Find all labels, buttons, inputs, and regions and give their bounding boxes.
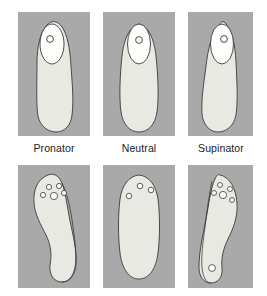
heel-region-supinator	[211, 24, 234, 64]
heel-region-pronator	[40, 24, 64, 64]
insole-hole	[126, 193, 132, 199]
insole-hole	[148, 187, 154, 193]
panel-rear-view-supinator	[188, 12, 253, 136]
panel-insole-neutral	[103, 165, 175, 288]
panel-insole-supinator	[188, 165, 253, 288]
insole-hole	[50, 192, 57, 199]
insole-hole	[230, 198, 235, 203]
panel-rear-view-pronator	[18, 12, 90, 136]
alignment-marker-icon	[221, 36, 228, 43]
alignment-marker-icon	[47, 36, 54, 43]
insole-hole	[137, 183, 143, 189]
caption-pronator: Pronator	[18, 142, 90, 154]
insole-hole	[46, 184, 51, 189]
heel-region-neutral	[128, 24, 151, 64]
insole-hole	[218, 183, 223, 188]
insole-hole	[219, 191, 226, 198]
insole-hole	[40, 192, 45, 197]
caption-supinator: Supinator	[186, 142, 256, 154]
insole-hole-heel	[209, 265, 216, 272]
insole-hole	[212, 191, 217, 196]
caption-neutral: Neutral	[103, 142, 175, 154]
insole-hole	[228, 187, 233, 192]
panel-rear-view-neutral	[103, 12, 175, 136]
insole-hole	[61, 190, 66, 195]
alignment-marker-icon	[136, 37, 143, 44]
panel-insole-pronator	[18, 165, 90, 288]
foot-posture-figure: Pronator Neutral Supinator	[0, 0, 267, 296]
insole-hole	[56, 183, 61, 188]
